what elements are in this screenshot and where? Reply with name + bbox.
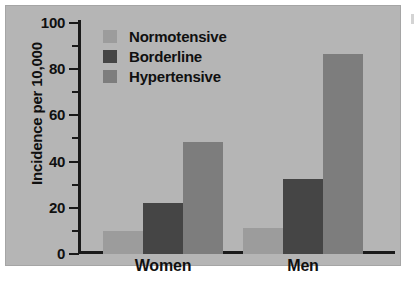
y-tick-major-20: [69, 207, 79, 209]
x-tick-label-women: Women: [123, 257, 203, 275]
bar-men-hypertensive: [323, 54, 363, 254]
y-tick-minor-90: [72, 45, 79, 47]
y-tick-label-wrap-100: 100: [5, 14, 65, 30]
y-tick-label-wrap-20: 20: [5, 199, 65, 215]
y-tick-label-40: 40: [25, 153, 65, 170]
legend-label-hypertensive: Hypertensive: [129, 68, 221, 85]
legend-item-borderline: Borderline: [103, 47, 227, 65]
y-tick-label-wrap-80: 80: [5, 60, 65, 76]
x-tick-label-men: Men: [263, 257, 343, 275]
chart-panel: Incidence per 10,000 0 20: [5, 5, 401, 266]
y-tick-major-60: [69, 114, 79, 116]
y-tick-minor-30: [72, 184, 79, 186]
y-tick-minor-50: [72, 137, 79, 139]
legend-item-normotensive: Normotensive: [103, 27, 227, 45]
y-tick-label-20: 20: [25, 199, 65, 216]
plot-area: Incidence per 10,000 0 20: [5, 5, 401, 266]
legend-label-normotensive: Normotensive: [129, 28, 227, 45]
y-tick-major-40: [69, 161, 79, 163]
y-tick-label-100: 100: [25, 14, 65, 31]
bar-men-borderline: [283, 179, 323, 254]
scan-artifact: [411, 14, 414, 24]
legend: Normotensive Borderline Hypertensive: [103, 27, 227, 87]
legend-swatch-hypertensive: [103, 70, 117, 83]
bar-women-hypertensive: [183, 142, 223, 254]
y-tick-major-80: [69, 68, 79, 70]
legend-swatch-normotensive: [103, 30, 117, 43]
y-tick-label-wrap-0: 0: [5, 245, 65, 261]
y-tick-minor-70: [72, 91, 79, 93]
y-tick-label-wrap-60: 60: [5, 106, 65, 122]
y-tick-label-80: 80: [25, 60, 65, 77]
y-tick-major-100: [69, 22, 79, 24]
bar-women-normotensive: [103, 231, 143, 254]
y-tick-label-0: 0: [25, 245, 65, 262]
y-tick-label-60: 60: [25, 106, 65, 123]
legend-item-hypertensive: Hypertensive: [103, 67, 227, 85]
y-tick-major-0: [69, 253, 79, 255]
figure-container: Incidence per 10,000 0 20: [0, 0, 419, 284]
bar-women-borderline: [143, 203, 183, 254]
legend-label-borderline: Borderline: [129, 48, 202, 65]
y-tick-label-wrap-40: 40: [5, 153, 65, 169]
y-tick-minor-10: [72, 230, 79, 232]
bar-men-normotensive: [243, 228, 283, 254]
legend-swatch-borderline: [103, 50, 117, 63]
